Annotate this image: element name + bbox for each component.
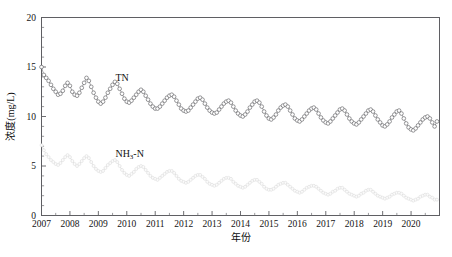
series-marker bbox=[388, 120, 392, 124]
y-tick-label: 10 bbox=[27, 112, 37, 122]
series-marker bbox=[47, 156, 50, 159]
x-tick-label: 2007 bbox=[32, 219, 51, 229]
series-marker bbox=[118, 165, 121, 168]
series-marker bbox=[104, 166, 107, 169]
series-marker bbox=[102, 169, 105, 172]
series-marker bbox=[404, 122, 408, 126]
series-marker bbox=[374, 114, 378, 118]
x-tick-label: 2011 bbox=[146, 219, 165, 229]
series-marker bbox=[231, 105, 235, 109]
x-axis-tick-labels: 2007200820092010201120122013201420152016… bbox=[32, 219, 421, 229]
series-marker bbox=[246, 110, 250, 114]
series-marker bbox=[402, 117, 406, 121]
series-marker bbox=[68, 84, 72, 88]
series-marker bbox=[118, 87, 122, 91]
x-axis-ticks bbox=[42, 211, 426, 216]
series-marker bbox=[172, 95, 176, 99]
series-marker bbox=[274, 113, 278, 117]
x-tick-label: 2009 bbox=[89, 219, 108, 229]
x-axis-title: 年份 bbox=[231, 231, 251, 243]
series-marker bbox=[92, 91, 96, 95]
series-marker bbox=[87, 157, 90, 160]
series-marker bbox=[175, 99, 179, 103]
series-marker bbox=[147, 171, 150, 174]
y-axis-title: 浓度(mg/L) bbox=[4, 92, 17, 140]
x-tick-label: 2016 bbox=[288, 219, 307, 229]
series-marker bbox=[229, 177, 232, 180]
series-marker bbox=[175, 174, 178, 177]
x-tick-label: 2019 bbox=[373, 219, 392, 229]
series-marker bbox=[345, 113, 349, 117]
series-marker bbox=[173, 171, 176, 174]
series-marker bbox=[400, 112, 404, 116]
series-marker bbox=[78, 163, 81, 166]
series-marker bbox=[89, 85, 93, 89]
x-tick-label: 2010 bbox=[117, 219, 136, 229]
y-tick-label: 20 bbox=[27, 13, 37, 23]
series-marker bbox=[78, 91, 82, 95]
y-tick-label: 15 bbox=[27, 62, 37, 72]
x-tick-label: 2020 bbox=[402, 219, 421, 229]
series-marker bbox=[144, 168, 147, 171]
series-marker bbox=[61, 159, 64, 162]
series-marker bbox=[132, 170, 135, 173]
series-marker bbox=[262, 110, 266, 114]
series-tn bbox=[40, 65, 439, 132]
series-marker bbox=[80, 160, 83, 163]
series-marker bbox=[229, 101, 233, 105]
series-marker bbox=[144, 94, 148, 98]
series-marker bbox=[430, 121, 434, 125]
series-marker bbox=[177, 103, 181, 107]
series-marker bbox=[142, 165, 145, 168]
series-marker bbox=[42, 149, 45, 152]
series-marker bbox=[258, 101, 262, 105]
x-tick-label: 2015 bbox=[259, 219, 278, 229]
series-marker bbox=[40, 65, 44, 69]
series-marker bbox=[291, 113, 295, 117]
series-marker bbox=[260, 182, 263, 185]
series-marker bbox=[87, 79, 91, 83]
series-annotations: TNNH3-N bbox=[115, 72, 144, 161]
series-marker bbox=[47, 79, 51, 83]
series-annotation-tn: TN bbox=[115, 72, 128, 83]
y-axis-tick-labels: 05101520 bbox=[27, 13, 37, 221]
series-annotation-nh3n: NH3-N bbox=[115, 148, 144, 161]
series-marker bbox=[106, 91, 110, 95]
series-marker bbox=[121, 168, 124, 171]
chart-figure: 05101520 2007200820092010201120122013201… bbox=[0, 0, 452, 257]
series-marker bbox=[433, 125, 437, 129]
x-tick-label: 2018 bbox=[345, 219, 364, 229]
x-tick-label: 2012 bbox=[174, 219, 193, 229]
series-marker bbox=[435, 198, 438, 201]
series-marker bbox=[71, 160, 74, 163]
x-tick-label: 2008 bbox=[60, 219, 79, 229]
series-marker bbox=[371, 110, 375, 114]
series-marker bbox=[45, 153, 48, 156]
series-marker bbox=[428, 117, 432, 121]
series-marker bbox=[59, 162, 62, 165]
x-tick-label: 2014 bbox=[231, 219, 250, 229]
series-marker bbox=[94, 96, 98, 100]
series-marker bbox=[116, 161, 119, 164]
series-marker bbox=[343, 109, 347, 113]
series-marker bbox=[82, 81, 86, 85]
series-marker bbox=[68, 156, 71, 159]
chart-canvas: 05101520 2007200820092010201120122013201… bbox=[0, 0, 452, 257]
series-marker bbox=[80, 86, 84, 90]
series-marker bbox=[203, 102, 207, 106]
series-marker bbox=[203, 177, 206, 180]
series-marker bbox=[286, 105, 290, 109]
series-marker bbox=[104, 96, 108, 100]
series-marker bbox=[40, 144, 43, 147]
series-marker bbox=[314, 108, 318, 112]
x-tick-label: 2013 bbox=[203, 219, 222, 229]
series-marker bbox=[61, 89, 65, 93]
y-axis-ticks bbox=[42, 18, 47, 216]
series-marker bbox=[49, 83, 53, 87]
series-marker bbox=[101, 100, 105, 104]
series-marker bbox=[317, 112, 321, 116]
series-marker bbox=[201, 98, 205, 102]
series-marker bbox=[435, 120, 439, 124]
series-marker bbox=[146, 98, 150, 102]
x-tick-label: 2017 bbox=[316, 219, 335, 229]
